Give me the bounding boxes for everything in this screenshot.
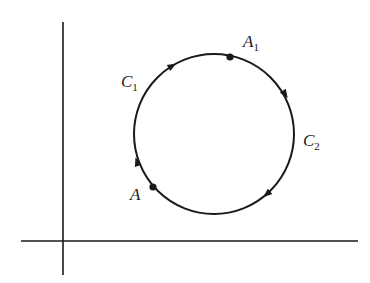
label-c1: C1 [121,72,138,93]
label-a: A [129,185,141,204]
arrow-c1-top [167,60,178,71]
label-a1: A1 [242,32,259,53]
label-c2: C2 [303,131,320,152]
point-a [149,183,156,190]
point-a1 [226,53,233,60]
closed-contour [134,54,294,214]
contour-diagram: A1 C1 C2 A [0,0,370,283]
